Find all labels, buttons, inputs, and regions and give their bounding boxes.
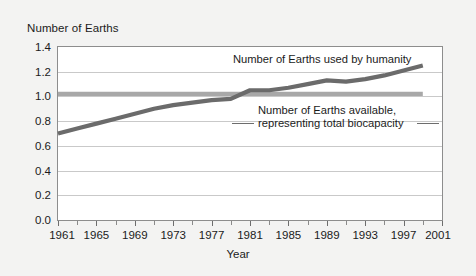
x-axis-tick-minor <box>346 221 347 225</box>
x-axis-tick-minor <box>116 221 117 225</box>
x-axis-tick-label: 1989 <box>314 229 340 241</box>
y-axis-tick-label: 0.8 <box>23 115 51 127</box>
x-axis-tick-major <box>327 221 328 226</box>
y-axis-tick-label: 1.2 <box>23 66 51 78</box>
x-axis-tick-minor <box>423 221 424 225</box>
x-axis-tick-major <box>58 221 59 226</box>
x-axis-tick-major <box>96 221 97 226</box>
x-axis-tick-major <box>250 221 251 226</box>
x-axis-tick-label: 1981 <box>237 229 263 241</box>
y-axis-tick-label: 0.6 <box>23 140 51 152</box>
y-axis-tick-label: 0.2 <box>23 189 51 201</box>
series-label-footprint: Number of Earths used by humanity <box>233 53 411 66</box>
x-axis-tick-label: 1961 <box>49 229 75 241</box>
x-axis-tick-major <box>173 221 174 226</box>
chart-figure: Number of Earths 0.00.20.40.60.81.01.21.… <box>0 0 476 276</box>
x-axis-title: Year <box>0 248 476 260</box>
y-axis-tick-labels: 0.00.20.40.60.81.01.21.4 <box>21 46 51 221</box>
x-axis-tick-minor <box>231 221 232 225</box>
plot-area <box>57 46 443 221</box>
x-axis-tick-major <box>442 221 443 226</box>
x-axis-tick-label: 1985 <box>276 229 302 241</box>
x-axis-tick-minor <box>384 221 385 225</box>
biocapacity-label-line2: representing total biocapacity <box>258 117 404 130</box>
y-axis-tick-label: 1.0 <box>23 90 51 102</box>
series-label-biocapacity: Number of Earths available, representing… <box>258 104 404 130</box>
x-axis-tick-major <box>212 221 213 226</box>
y-axis-tick-label: 1.4 <box>23 41 51 53</box>
y-axis-tick-label: 0.4 <box>23 165 51 177</box>
x-axis-tick-minor <box>154 221 155 225</box>
x-axis-tick-major <box>365 221 366 226</box>
x-axis-tick-major <box>404 221 405 226</box>
x-axis-tick-label: 1973 <box>160 229 186 241</box>
x-axis-tick-label: 1965 <box>84 229 110 241</box>
biocapacity-label-line1: Number of Earths available, <box>258 104 404 117</box>
x-axis-tick-minor <box>192 221 193 225</box>
x-axis-tick-minor <box>269 221 270 225</box>
x-axis-tick-major <box>135 221 136 226</box>
x-axis-tick-label: 1997 <box>391 229 417 241</box>
x-axis-tick-labels: 1961196519691973197719811985198919931997… <box>57 229 443 245</box>
x-axis-tick-label: 1969 <box>122 229 148 241</box>
x-axis-tick-label: 2001 <box>425 229 451 241</box>
x-axis-tick-minor <box>308 221 309 225</box>
series-lines <box>58 47 442 220</box>
x-axis-tick-label: 1993 <box>352 229 378 241</box>
y-axis-title: Number of Earths <box>27 22 119 34</box>
leader-line-right <box>417 123 439 124</box>
leader-line-left <box>232 123 254 124</box>
x-axis-tick-minor <box>77 221 78 225</box>
x-axis-tick-major <box>288 221 289 226</box>
x-axis-ticks <box>57 221 443 229</box>
y-axis-tick-label: 0.0 <box>23 214 51 226</box>
x-axis-tick-label: 1977 <box>199 229 225 241</box>
